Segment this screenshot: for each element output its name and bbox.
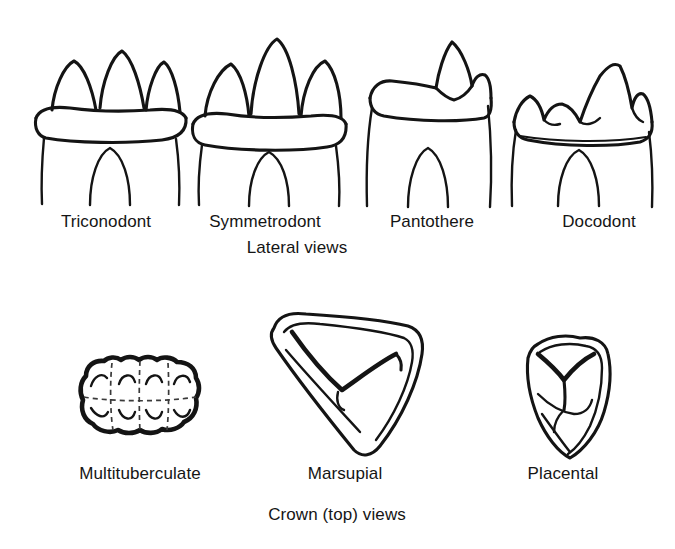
root-notch [558,150,599,206]
basin-line [286,350,360,432]
label-placental: Placental [528,464,599,484]
cusp-mark-bottom-1 [91,408,108,416]
cusp-divider-2 [139,361,140,432]
root-left-edge [42,138,44,204]
docodont-drawing [500,38,655,208]
placental-drawing [508,332,624,462]
cusp-mark-bottom-3 [146,410,162,419]
cusp-mark-bottom-2 [119,410,135,419]
cingulum-bottom [514,122,652,146]
cusp-left [52,61,96,110]
specimen-pantothere [358,32,498,208]
label-marsupial: Marsupial [308,464,383,484]
root-right-edge [488,106,491,207]
cingulum-inner-line [520,136,646,141]
cusp-center [251,39,299,114]
root-right-edge [649,132,652,207]
crown-cusp-profile [514,64,652,122]
cusp-notch [436,86,472,100]
cusp-mark-top-2 [119,375,135,384]
cingulum-top [36,107,186,118]
specimen-multituberculate [74,354,208,442]
specimen-marsupial [262,306,430,462]
root-right-edge [336,146,339,206]
caption-crown-views: Crown (top) views [268,505,406,525]
cusp-mark-bottom-4 [174,410,190,417]
root-left-edge [199,145,202,205]
cingulum-bottom [193,124,347,150]
cusp-divider-1 [111,363,113,430]
crown-cusp-profile [370,42,491,98]
label-triconodont: Triconodont [61,212,151,232]
root-notch [408,148,448,207]
label-multituberculate: Multituberculate [79,464,201,484]
crest-stem [564,380,565,410]
label-symmetrodont: Symmetrodont [209,212,321,232]
crown-outline [81,357,199,433]
tooth-morphology-figure: Triconodont Symmetrodont Pantothere Doco… [0,0,675,549]
crest-branch [396,354,401,370]
triconodont-drawing [30,42,190,207]
root-left-edge [512,130,516,206]
cusp-notch-right [632,108,643,122]
cusp-divider-3 [167,363,169,430]
basin-inner-ridge [554,410,564,432]
cingulum-top [193,113,346,124]
marsupial-drawing [262,306,430,462]
root-left-edge [367,108,372,206]
multituberculate-drawing [74,354,208,442]
root-right-edge [176,139,179,205]
root-notch [249,152,289,206]
cingulum-bottom [35,118,186,142]
caption-lateral-views: Lateral views [247,238,348,258]
cusp-left [205,64,249,116]
symmetrodont-drawing [189,30,349,207]
cusp-notch-mid [580,118,600,124]
specimen-symmetrodont [189,30,349,207]
shearing-crest [292,332,396,390]
cusp-right [146,62,180,112]
pantothere-drawing [358,32,498,208]
label-pantothere: Pantothere [390,212,474,232]
crown-bottom [370,98,491,121]
cusp-mark-top-4 [174,376,190,384]
crown-inner-rim [284,323,413,440]
cusp-notch-left [544,120,560,125]
cusp-center [100,51,144,108]
root-notch [90,148,130,205]
specimen-docodont [500,38,655,208]
cusp-right [301,61,341,118]
label-docodont: Docodont [562,212,636,232]
shearing-crest [538,354,594,380]
cusp-mark-top-3 [146,375,162,384]
specimen-triconodont [30,42,190,207]
specimen-placental [508,332,624,462]
cusp-mark-top-1 [91,375,107,386]
